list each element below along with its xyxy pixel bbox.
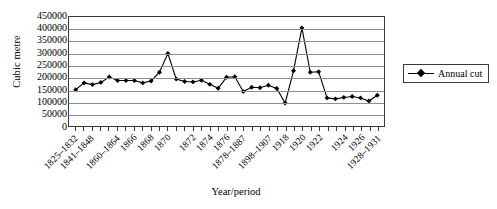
data-point-marker <box>308 69 313 74</box>
x-tick-label: 1898–1907 <box>236 133 274 171</box>
data-point-marker <box>90 82 95 87</box>
y-tick-label: 100000 <box>37 97 67 107</box>
series-annual-cut <box>69 17 384 126</box>
x-tick-mark <box>117 127 118 131</box>
x-tick-mark <box>269 127 270 131</box>
data-point-marker <box>207 81 212 86</box>
x-axis-title: Year/period <box>176 186 296 197</box>
data-point-marker <box>333 96 338 101</box>
data-point-marker <box>266 82 271 87</box>
y-tick-label: 50000 <box>42 109 67 119</box>
plot-area <box>68 16 385 127</box>
x-tick-mark <box>176 127 177 131</box>
data-point-marker <box>341 94 346 99</box>
data-point-marker <box>325 95 330 100</box>
x-tick-mark <box>193 127 194 131</box>
x-tick-mark <box>260 127 261 131</box>
x-tick-mark <box>108 127 109 131</box>
x-tick-label: 1924 <box>329 132 350 153</box>
y-axis-tick-labels: 0500001000001500002000002500003000003500… <box>0 0 70 140</box>
gridline <box>69 115 384 116</box>
x-tick-mark <box>201 127 202 131</box>
x-tick-mark <box>218 127 219 131</box>
data-point-marker <box>258 85 263 90</box>
y-tick-label: 450000 <box>37 11 67 21</box>
y-tick-label: 400000 <box>37 23 67 33</box>
x-tick-mark <box>125 127 126 131</box>
x-tick-mark <box>227 127 228 131</box>
y-tick-label: 300000 <box>37 48 67 58</box>
chart-legend: Annual cut <box>403 64 489 83</box>
x-tick-mark <box>286 127 287 131</box>
x-tick-mark <box>235 127 236 131</box>
x-tick-mark <box>83 127 84 131</box>
x-tick-label: 1860–1864 <box>84 133 122 171</box>
data-point-marker <box>358 95 363 100</box>
gridline <box>69 29 384 30</box>
x-tick-label: 1876 <box>211 132 232 153</box>
x-tick-mark <box>252 127 253 131</box>
x-tick-mark <box>184 127 185 131</box>
x-tick-label: 1928–1931 <box>345 133 383 171</box>
x-tick-mark <box>159 127 160 131</box>
x-tick-mark <box>302 127 303 131</box>
x-tick-mark <box>142 127 143 131</box>
y-tick-label: 0 <box>62 122 67 132</box>
x-tick-label: 1922 <box>304 132 325 153</box>
x-tick-mark <box>134 127 135 131</box>
x-tick-mark <box>75 127 76 131</box>
x-tick-label: 1868 <box>135 132 156 153</box>
x-tick-mark <box>361 127 362 131</box>
gridline <box>69 91 384 92</box>
x-tick-mark <box>210 127 211 131</box>
gridline <box>69 103 384 104</box>
line-chart: Cubic metre 0500001000001500002000002500… <box>0 0 497 209</box>
gridline <box>69 41 384 42</box>
x-tick-label: 1870 <box>152 132 173 153</box>
y-tick-label: 250000 <box>37 60 67 70</box>
x-tick-mark <box>151 127 152 131</box>
data-point-marker <box>191 79 196 84</box>
x-tick-mark <box>100 127 101 131</box>
legend-label: Annual cut <box>438 68 482 79</box>
data-point-marker <box>291 68 296 73</box>
x-tick-label: 1866 <box>118 132 139 153</box>
x-tick-mark <box>345 127 346 131</box>
x-tick-label: 1872 <box>177 132 198 153</box>
x-tick-label: 1918 <box>270 132 291 153</box>
x-tick-mark <box>328 127 329 131</box>
x-tick-mark <box>243 127 244 131</box>
y-tick-label: 200000 <box>37 72 67 82</box>
x-tick-mark <box>336 127 337 131</box>
x-tick-mark <box>311 127 312 131</box>
y-tick-label: 350000 <box>37 35 67 45</box>
legend-marker-icon <box>408 69 434 78</box>
x-tick-label: 1874 <box>194 132 215 153</box>
data-point-marker <box>249 84 254 89</box>
gridline <box>69 66 384 67</box>
x-axis-tick-marks <box>68 127 385 132</box>
x-tick-mark <box>370 127 371 131</box>
gridline <box>69 54 384 55</box>
x-tick-mark <box>277 127 278 131</box>
y-tick-label: 150000 <box>37 85 67 95</box>
x-tick-mark <box>167 127 168 131</box>
x-tick-mark <box>92 127 93 131</box>
x-tick-mark <box>319 127 320 131</box>
data-point-marker <box>316 69 321 74</box>
x-tick-mark <box>378 127 379 131</box>
data-point-marker <box>140 80 145 85</box>
x-tick-mark <box>353 127 354 131</box>
data-point-marker <box>350 93 355 98</box>
gridline <box>69 78 384 79</box>
x-tick-label: 1878–1887 <box>210 133 248 171</box>
x-tick-mark <box>294 127 295 131</box>
x-tick-label: 1926 <box>346 132 367 153</box>
data-point-marker <box>182 78 187 83</box>
x-tick-label: 1920 <box>287 132 308 153</box>
